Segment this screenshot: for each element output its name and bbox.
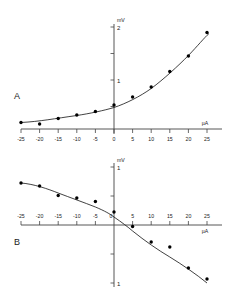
data-point (57, 194, 60, 197)
x-tick-label: 15 (167, 136, 173, 142)
x-tick-label: 10 (148, 136, 154, 142)
data-point (150, 85, 153, 88)
data-point (187, 54, 190, 57)
panel-b-label: B (14, 237, 20, 247)
panel-a: A -25 -20 -15 -10 -5 0 5 10 (14, 17, 222, 142)
x-tick-label: 5 (131, 136, 134, 142)
data-point (112, 103, 115, 106)
x-tick-label: 0 (113, 136, 116, 142)
panel-a-x-tick-labels: -25 -20 -15 -10 -5 0 5 10 15 20 25 (17, 136, 210, 142)
data-point (131, 225, 134, 228)
x-tick-label: -15 (54, 213, 62, 219)
panel-a-y-axis-unit: mV (117, 17, 125, 23)
data-point (131, 95, 134, 98)
data-point (38, 184, 41, 187)
x-tick-label: -10 (73, 136, 81, 142)
data-point (150, 240, 153, 243)
x-tick-label: -5 (93, 213, 98, 219)
x-tick-label: -20 (36, 213, 44, 219)
panel-b-x-axis-unit: µA (202, 228, 209, 234)
x-tick-label: -20 (36, 136, 44, 142)
panel-a-y-ticks (111, 27, 115, 107)
x-tick-label: 15 (167, 213, 173, 219)
data-point (205, 277, 208, 280)
data-point (205, 31, 208, 34)
y-tick-label: 2 (117, 25, 121, 31)
panel-a-x-ticks (21, 129, 207, 133)
data-point (168, 70, 171, 73)
x-tick-label: 25 (204, 136, 210, 142)
figure-container: A -25 -20 -15 -10 -5 0 5 10 (0, 0, 231, 299)
panel-a-fit-curve (21, 34, 209, 123)
x-tick-label: -25 (17, 213, 25, 219)
x-tick-label: 20 (186, 213, 192, 219)
y-tick-label: 1 (117, 78, 121, 84)
x-tick-label: -5 (93, 136, 98, 142)
x-tick-label: 10 (148, 213, 154, 219)
panel-a-x-axis-unit: µA (202, 120, 209, 126)
x-tick-label: -15 (54, 136, 62, 142)
x-tick-label: 5 (131, 213, 134, 219)
data-point (112, 210, 115, 213)
data-point (75, 113, 78, 116)
x-tick-label: 25 (204, 213, 210, 219)
panel-b: B -25 -20 -15 -10 -5 0 5 10 (14, 157, 222, 287)
x-tick-label: 20 (186, 136, 192, 142)
y-tick-label: 1 (117, 281, 121, 287)
data-point (19, 121, 22, 124)
x-tick-label: -10 (73, 213, 81, 219)
data-point (19, 181, 22, 184)
data-point (57, 117, 60, 120)
data-point (75, 196, 78, 199)
panel-b-y-axis-unit: mV (117, 157, 125, 163)
x-tick-label: -25 (17, 136, 25, 142)
y-tick-label: 1 (117, 165, 121, 171)
panel-a-label: A (14, 91, 20, 101)
data-point (38, 122, 41, 125)
data-point (94, 200, 97, 203)
data-point (168, 245, 171, 248)
data-point (187, 266, 190, 269)
data-point (94, 110, 97, 113)
